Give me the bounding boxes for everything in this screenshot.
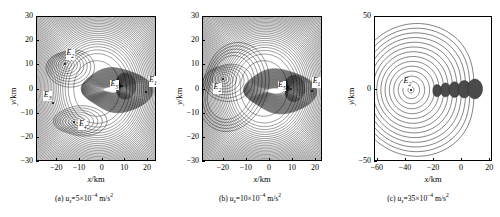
y-tick-mark [202, 89, 205, 90]
x-tick-mark [377, 158, 378, 161]
y-tick-label: 30 [12, 12, 33, 20]
equilibrium-point-label: E5 [110, 80, 119, 91]
y-tick-mark [36, 137, 39, 138]
y-tick-label: 10 [12, 60, 33, 68]
x-tick-mark [433, 158, 434, 161]
equilibrium-point-label: E3 [43, 91, 52, 102]
x-tick-mark [124, 158, 125, 161]
y-tick-mark [374, 89, 377, 90]
y-tick-mark [36, 89, 39, 90]
x-tick-mark [461, 158, 462, 161]
plot-area-a [36, 16, 156, 161]
y-tick-label: 0 [350, 85, 371, 93]
y-tick-mark [374, 16, 377, 17]
x-axis-label-a: x/km [36, 174, 156, 184]
equilibrium-point-label: E2 [66, 49, 75, 60]
x-tick-label: −20 [420, 164, 446, 172]
y-tick-label: 30 [178, 12, 199, 20]
y-tick-mark [374, 161, 377, 162]
contour-plot-a [37, 17, 155, 160]
equilibrium-point-dot [311, 90, 313, 92]
y-tick-mark [202, 40, 205, 41]
y-tick-label: −10 [12, 109, 33, 117]
panel-caption-c: (c) us=35×10−4 m/s2 [336, 192, 500, 204]
panel-b: y/km x/km 3020100−10−20−30−20−1001020 E1… [166, 0, 334, 217]
contour-figure: y/km x/km 3020100−10−20−30−20−1001020 E1… [0, 0, 500, 217]
y-tick-label: 50 [350, 12, 371, 20]
plot-area-c [374, 16, 492, 161]
y-tick-mark [202, 161, 205, 162]
equilibrium-point-label: E2 [213, 83, 222, 94]
x-tick-mark [292, 158, 293, 161]
y-tick-label: 20 [12, 36, 33, 44]
equilibrium-point-label: E2 [403, 77, 412, 88]
x-tick-mark [56, 158, 57, 161]
contour-plot-c [375, 17, 491, 160]
x-tick-label: 20 [476, 164, 500, 172]
x-tick-mark [147, 158, 148, 161]
y-tick-label: −30 [12, 157, 33, 165]
x-tick-mark [315, 158, 316, 161]
equilibrium-point-label: E5 [278, 81, 287, 92]
x-tick-mark [102, 158, 103, 161]
y-tick-mark [36, 161, 39, 162]
x-tick-mark [223, 158, 224, 161]
panel-c: y/km x/km 500−50−60−40−20020 E2 (c) us=3… [336, 0, 500, 217]
equilibrium-point-dot [52, 102, 54, 104]
panel-caption-b: (b) us=10×10−4 m/s2 [166, 192, 334, 204]
y-tick-mark [202, 113, 205, 114]
y-tick-label: 0 [178, 85, 199, 93]
x-tick-mark [246, 158, 247, 161]
x-axis-label-c: x/km [374, 174, 492, 184]
x-tick-label: 0 [448, 164, 474, 172]
y-tick-label: 0 [12, 85, 33, 93]
equilibrium-point-dot [222, 78, 224, 80]
equilibrium-point-dot [290, 88, 292, 90]
y-tick-mark [36, 64, 39, 65]
x-tick-label: −60 [364, 164, 390, 172]
y-tick-mark [36, 40, 39, 41]
x-tick-label: 20 [134, 164, 160, 172]
panel-caption-a: (a) us=5×10−4 m/s2 [0, 192, 168, 204]
y-tick-label: −20 [178, 133, 199, 141]
equilibrium-point-label: E1 [149, 76, 158, 87]
equilibrium-point-label: E4 [78, 120, 87, 131]
equilibrium-point-label: E1 [312, 77, 321, 88]
x-tick-label: 20 [302, 164, 328, 172]
y-tick-mark [36, 113, 39, 114]
y-tick-mark [202, 16, 205, 17]
cropped-text-line [0, 211, 500, 217]
x-tick-mark [489, 158, 490, 161]
y-tick-label: 10 [178, 60, 199, 68]
equilibrium-point-dot [410, 89, 412, 91]
x-tick-mark [405, 158, 406, 161]
y-tick-label: −20 [12, 133, 33, 141]
y-tick-label: −30 [178, 157, 199, 165]
x-tick-mark [79, 158, 80, 161]
y-tick-mark [36, 16, 39, 17]
equilibrium-point-dot [145, 91, 147, 93]
y-tick-label: −10 [178, 109, 199, 117]
x-axis-label-b: x/km [202, 174, 322, 184]
panel-a: y/km x/km 3020100−10−20−30−20−1001020 E1… [0, 0, 168, 217]
y-tick-mark [202, 137, 205, 138]
y-tick-label: 20 [178, 36, 199, 44]
x-tick-mark [269, 158, 270, 161]
x-tick-label: −40 [392, 164, 418, 172]
y-tick-mark [202, 64, 205, 65]
